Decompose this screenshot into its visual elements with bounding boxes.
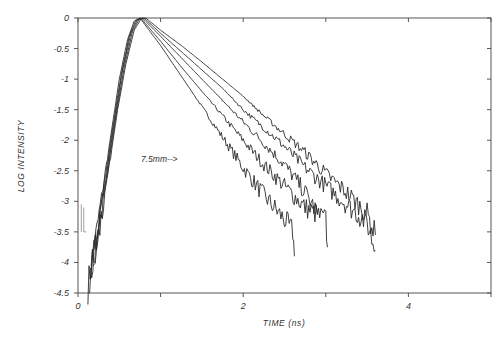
- annotation-label: 7.5mm-->: [141, 154, 178, 164]
- y-tick-label: -4: [61, 257, 69, 267]
- y-tick-label: -0.5: [53, 44, 70, 54]
- x-tick-label: 0: [75, 301, 80, 311]
- annotation-layer: 7.5mm-->: [141, 154, 178, 164]
- y-tick-label: -1: [61, 74, 69, 84]
- y-tick-label: -3.5: [53, 227, 70, 237]
- chart-background: [0, 0, 503, 340]
- x-axis-title: TIME (ns): [263, 318, 306, 328]
- y-tick-label: 0: [64, 13, 69, 23]
- chart-canvas: 0-0.5-1-1.5-2-2.5-3-3.5-4-4.5 024 7.5mm-…: [0, 0, 503, 340]
- y-tick-label: -1.5: [53, 105, 70, 115]
- y-tick-label: -2: [61, 135, 69, 145]
- decay-chart: 0-0.5-1-1.5-2-2.5-3-3.5-4-4.5 024 7.5mm-…: [0, 0, 503, 340]
- y-tick-label: -4.5: [53, 288, 70, 298]
- x-tick-label: 4: [406, 301, 411, 311]
- y-tick-label: -3: [61, 196, 69, 206]
- y-tick-label: -2.5: [53, 166, 70, 176]
- x-tick-label: 2: [240, 301, 246, 311]
- y-axis-title: LOG INTENSITY: [16, 119, 26, 192]
